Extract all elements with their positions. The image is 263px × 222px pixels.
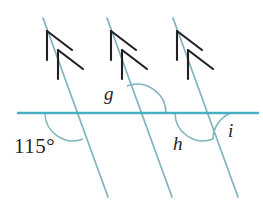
angle-label-i: i xyxy=(228,121,233,140)
arrowhead-group xyxy=(47,31,213,79)
arrowhead-line1-lower xyxy=(58,50,83,79)
angle-label-g: g xyxy=(104,84,114,103)
arrowhead-line1-upper xyxy=(47,31,72,60)
parallel-line-1 xyxy=(43,18,108,197)
arrowhead-line2-lower xyxy=(122,50,147,79)
arrowhead-line3-upper xyxy=(177,31,202,60)
arrowhead-line2-upper xyxy=(111,31,136,60)
parallel-line-2 xyxy=(107,18,172,197)
parallel-lines-group xyxy=(43,18,238,197)
parallel-line-3 xyxy=(173,18,238,197)
geometry-diagram: 115° g h i xyxy=(0,0,263,222)
angle-label-h: h xyxy=(173,134,183,153)
angle-label-115: 115° xyxy=(14,136,55,157)
arrowhead-line3-lower xyxy=(188,50,213,79)
geometry-canvas xyxy=(0,0,263,222)
